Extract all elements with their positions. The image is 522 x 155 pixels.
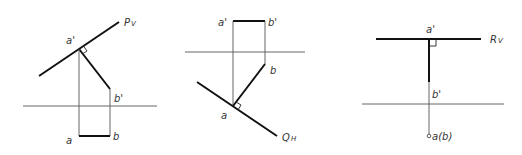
segment-ab — [233, 64, 265, 106]
projection-diagrams: a' b' a b PV a' b' b a QH a' b' a(b) RV — [0, 0, 522, 155]
label-b-prime: b' — [268, 17, 277, 28]
label-b-prime: b' — [432, 89, 441, 100]
label-a: a — [221, 110, 227, 121]
label-trace-pv: PV — [124, 17, 137, 28]
label-b: b — [270, 65, 276, 76]
label-a-prime: a' — [426, 24, 435, 35]
right-angle-mark — [429, 39, 436, 46]
label-trace-rv: RV — [490, 34, 504, 45]
label-trace-qh: QH — [282, 132, 297, 143]
figure-plane-R: a' b' a(b) RV — [362, 24, 504, 142]
label-a-prime: a' — [218, 17, 227, 28]
label-ab: a(b) — [432, 131, 452, 142]
label-b-prime: b' — [114, 93, 123, 104]
segment-a-prime-b-prime — [79, 49, 110, 89]
figure-plane-P: a' b' a b PV — [23, 17, 157, 146]
label-a: a — [66, 135, 72, 146]
figure-plane-Q: a' b' b a QH — [185, 17, 305, 143]
trace-line-qh — [197, 82, 277, 136]
label-b: b — [113, 131, 119, 142]
point-ab — [427, 134, 431, 138]
label-a-prime: a' — [66, 35, 75, 46]
